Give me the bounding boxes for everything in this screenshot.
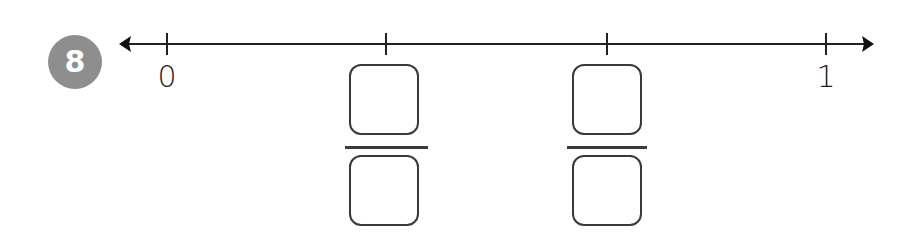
number-line xyxy=(0,0,919,234)
denominator-box-2[interactable] xyxy=(572,155,642,226)
denominator-box-1[interactable] xyxy=(349,155,419,226)
tick-label-one: 1 xyxy=(806,62,846,92)
tick-label-zero: 0 xyxy=(147,62,187,92)
fraction-bar-1 xyxy=(345,146,428,149)
fraction-bar-2 xyxy=(567,146,647,149)
numerator-box-1[interactable] xyxy=(349,64,419,135)
numerator-box-2[interactable] xyxy=(572,64,642,135)
